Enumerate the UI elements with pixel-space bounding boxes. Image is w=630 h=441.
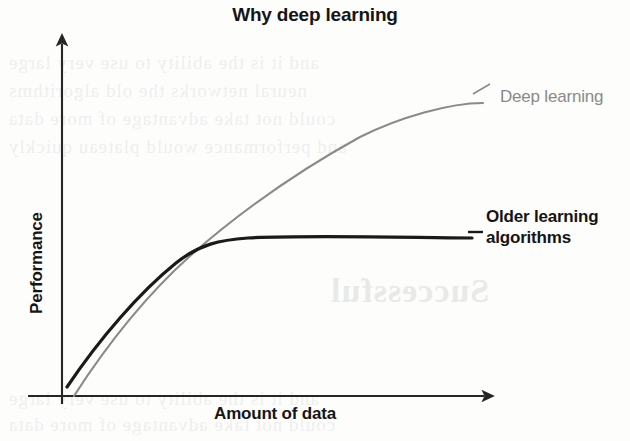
older-learning-label: Older learning algorithms <box>486 206 598 248</box>
deep-learning-leader-line <box>473 84 490 94</box>
deep-learning-label: Deep learning <box>500 86 603 107</box>
older-learning-label-line1: Older learning <box>486 206 598 227</box>
deep-learning-curve <box>74 103 483 396</box>
older-learning-curve <box>67 236 472 387</box>
scanned-page: and it is the ability to use very large … <box>0 0 630 441</box>
older-learning-label-line2: algorithms <box>486 227 598 248</box>
y-axis-label: Performance <box>27 193 47 333</box>
x-axis-label: Amount of data <box>155 404 395 424</box>
